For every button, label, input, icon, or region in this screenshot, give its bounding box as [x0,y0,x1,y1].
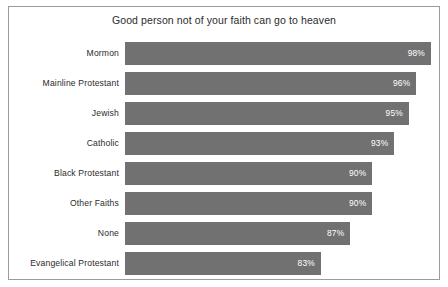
bar: 90% [125,192,372,215]
bar-row: Catholic93% [9,132,439,155]
bar-category-label: Catholic [9,132,119,155]
bar-track: 90% [125,192,431,215]
bar: 90% [125,162,372,185]
bar: 87% [125,222,350,245]
bar-value-label: 90% [349,192,366,215]
bar-category-label: Jewish [9,102,119,125]
bar-row: Jewish95% [9,102,439,125]
bar-row: Black Protestant90% [9,162,439,185]
bar-value-label: 98% [408,42,425,65]
bar-category-label: Evangelical Protestant [9,252,119,275]
bar-category-label: None [9,222,119,245]
bar-row: None87% [9,222,439,245]
bar-value-label: 95% [386,102,403,125]
bar-track: 83% [125,252,431,275]
bar-track: 96% [125,72,431,95]
bar-track: 95% [125,102,431,125]
chart-frame: Good person not of your faith can go to … [8,6,440,280]
bar-value-label: 96% [393,72,410,95]
bar-value-label: 87% [327,222,344,245]
bar-row: Mainline Protestant96% [9,72,439,95]
bar-track: 90% [125,162,431,185]
bar-value-label: 90% [349,162,366,185]
bar-row: Other Faiths90% [9,192,439,215]
bar: 83% [125,252,321,275]
bar: 95% [125,102,409,125]
chart-plot-area: Mormon98%Mainline Protestant96%Jewish95%… [9,35,439,279]
bar-row: Mormon98% [9,42,439,65]
bar-track: 87% [125,222,431,245]
bar-value-label: 83% [298,252,315,275]
bar: 93% [125,132,394,155]
bar-track: 98% [125,42,431,65]
chart-title: Good person not of your faith can go to … [9,14,439,26]
bar-row: Evangelical Protestant83% [9,252,439,275]
bar-category-label: Other Faiths [9,192,119,215]
bar: 98% [125,42,431,65]
bar-category-label: Black Protestant [9,162,119,185]
bar-category-label: Mormon [9,42,119,65]
bar: 96% [125,72,416,95]
bar-value-label: 93% [371,132,388,155]
bar-category-label: Mainline Protestant [9,72,119,95]
bar-track: 93% [125,132,431,155]
